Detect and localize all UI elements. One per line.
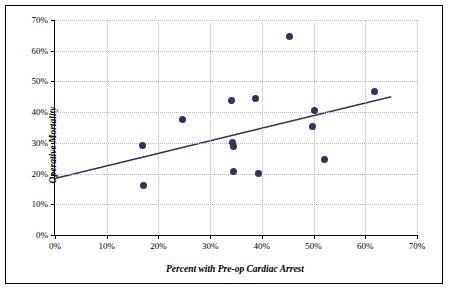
gridline-vertical	[365, 20, 366, 235]
x-axis-tick-label: 20%	[150, 241, 167, 251]
y-axis-tick-label: 0%	[36, 230, 48, 240]
x-axis-tick-label: 0%	[49, 241, 61, 251]
x-axis-tick-label: 30%	[202, 241, 219, 251]
scatter-chart: Operative Mortality Percent with Pre-op …	[0, 0, 449, 290]
x-axis-title: Percent with Pre-op Cardiac Arrest	[54, 264, 416, 274]
x-axis-tick	[158, 235, 159, 239]
x-axis-tick-label: 40%	[254, 241, 271, 251]
x-axis-tick	[55, 235, 56, 239]
gridline-horizontal	[55, 51, 417, 52]
y-axis-tick	[51, 204, 55, 205]
y-axis-tick-label: 40%	[32, 107, 49, 117]
gridline-horizontal	[55, 81, 417, 82]
gridline-vertical	[210, 20, 211, 235]
x-axis-tick-label: 50%	[305, 241, 322, 251]
x-axis-tick-label: 10%	[98, 241, 115, 251]
plot-area: 0%10%20%30%40%50%60%70%0%10%20%30%40%50%…	[54, 20, 417, 236]
y-axis-tick-label: 50%	[32, 76, 49, 86]
trendline	[55, 20, 417, 235]
x-axis-tick-label: 60%	[357, 241, 374, 251]
x-axis-tick	[417, 235, 418, 239]
gridline-vertical	[262, 20, 263, 235]
y-axis-tick-label: 60%	[32, 46, 49, 56]
y-axis-tick	[51, 112, 55, 113]
data-point	[371, 88, 378, 95]
data-point	[286, 33, 293, 40]
x-axis-tick	[314, 235, 315, 239]
gridline-vertical	[158, 20, 159, 235]
data-point	[309, 123, 316, 130]
y-axis-tick	[51, 81, 55, 82]
data-point	[139, 142, 146, 149]
gridline-horizontal	[55, 204, 417, 205]
x-axis-tick	[262, 235, 263, 239]
x-axis-tick-label: 70%	[409, 241, 426, 251]
y-axis-tick	[51, 51, 55, 52]
data-point	[321, 156, 328, 163]
gridline-vertical	[107, 20, 108, 235]
gridline-horizontal	[55, 112, 417, 113]
x-axis-tick	[365, 235, 366, 239]
y-axis-tick	[51, 20, 55, 21]
x-axis-tick	[210, 235, 211, 239]
chart-frame: Operative Mortality Percent with Pre-op …	[5, 5, 443, 284]
data-point	[179, 116, 186, 123]
gridline-horizontal	[55, 20, 417, 21]
y-axis-tick-label: 70%	[32, 15, 49, 25]
y-axis-tick-label: 30%	[32, 138, 49, 148]
y-axis-tick	[51, 143, 55, 144]
y-axis-tick-label: 20%	[32, 169, 49, 179]
y-axis-tick-label: 10%	[32, 199, 49, 209]
gridline-vertical	[417, 20, 418, 235]
x-axis-tick	[107, 235, 108, 239]
y-axis-tick	[51, 174, 55, 175]
data-point	[255, 170, 262, 177]
